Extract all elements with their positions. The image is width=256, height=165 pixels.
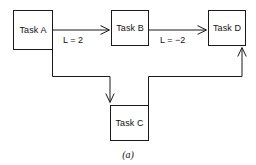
edge-a-b-line (53, 26, 110, 35)
edge-label-b-d: L = −2 (160, 36, 185, 45)
figure-caption: (a) (0, 150, 256, 160)
node-task-a[interactable]: Task A (13, 10, 53, 50)
edge-label-a-b: L = 2 (63, 36, 83, 45)
edge-a-c-line (53, 30, 115, 103)
node-task-d[interactable]: Task D (208, 10, 246, 46)
edge-c-d-line (149, 48, 247, 106)
node-task-c[interactable]: Task C (110, 105, 149, 141)
node-task-b[interactable]: Task B (111, 10, 149, 46)
node-task-a-label: Task A (19, 26, 46, 35)
node-task-d-label: Task D (213, 24, 241, 33)
node-task-b-label: Task B (116, 24, 144, 33)
edge-b-d-line (149, 26, 207, 35)
task-graph-figure: Task A Task B Task D Task C L = 2 L = −2… (0, 0, 256, 165)
node-task-c-label: Task C (115, 119, 143, 128)
